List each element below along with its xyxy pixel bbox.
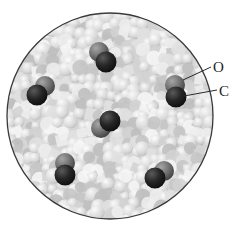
label-oxygen: O [213, 60, 224, 75]
co-in-medium-diagram [0, 0, 242, 232]
carbon-atom [55, 165, 76, 186]
carbon-atom [145, 168, 166, 189]
carbon-atom [27, 85, 48, 106]
label-carbon: C [219, 84, 229, 99]
co-molecule [55, 153, 76, 186]
carbon-atom [166, 87, 187, 108]
carbon-atom [96, 52, 117, 73]
diagram-stage: O C [0, 0, 242, 232]
carbon-atom [100, 111, 121, 132]
packed-medium [0, 0, 242, 232]
